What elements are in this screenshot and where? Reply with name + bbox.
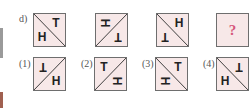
glyph-h-rotated: H [159, 75, 171, 87]
option-2-label: (2) [81, 59, 93, 69]
option-1-label: (1) [19, 59, 31, 69]
option-3-figure[interactable]: T H [155, 57, 188, 91]
option-3-label: (3) [142, 59, 154, 69]
glyph-h: H [36, 31, 48, 43]
glyph-h-rotated: H [111, 75, 123, 87]
glyph-t: T [50, 17, 62, 29]
question-label: d) [19, 14, 27, 24]
glyph-t-inverted: T [112, 31, 124, 43]
glyph-h: H [50, 75, 62, 87]
sequence-figure-unknown: ? [216, 13, 249, 47]
glyph-t-inverted: T [37, 61, 49, 73]
glyph-h: H [219, 75, 231, 87]
glyph-h-rotated: H [99, 17, 111, 29]
sequence-figure-2: H T [95, 13, 128, 47]
option-4-label: (4) [203, 59, 215, 69]
glyph-t: T [172, 61, 184, 73]
adjacent-content-edge [0, 92, 3, 108]
option-4-figure[interactable]: T H [216, 57, 249, 91]
sequence-figure-1: T H [33, 13, 66, 47]
question-mark: ? [217, 22, 248, 39]
option-1-figure[interactable]: T H [33, 57, 66, 91]
glyph-h: H [173, 17, 185, 29]
glyph-t-inverted: T [159, 31, 171, 43]
glyph-t: T [98, 61, 110, 73]
adjacent-content-edge [0, 28, 3, 58]
glyph-t-inverted: T [233, 61, 245, 73]
option-2-figure[interactable]: T H [94, 57, 127, 91]
sequence-figure-3: H T [156, 13, 189, 47]
